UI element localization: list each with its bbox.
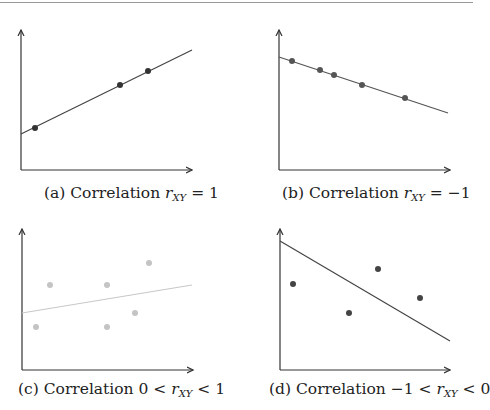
data-point <box>145 68 151 74</box>
data-point <box>375 266 381 272</box>
caption-c-var: r <box>171 380 178 398</box>
caption-d: (d) Correlation −1 < rXY < 0 <box>269 380 490 399</box>
caption-a-prefix: (a) Correlation <box>44 184 165 202</box>
data-point <box>289 58 295 64</box>
regression-line <box>22 285 192 313</box>
data-point <box>104 282 110 288</box>
caption-b-sub: XY <box>411 192 425 203</box>
caption-c-prefix: (c) Correlation 0 < <box>18 380 171 398</box>
panel-d <box>280 229 450 370</box>
data-point <box>346 310 352 316</box>
data-point <box>317 67 323 73</box>
caption-d-prefix: (d) Correlation −1 < <box>269 380 436 398</box>
data-point <box>402 95 408 101</box>
caption-a-sub: XY <box>173 192 187 203</box>
caption-d-var: r <box>436 380 443 398</box>
panel-a <box>21 30 192 170</box>
caption-c-sub: XY <box>179 388 193 399</box>
caption-d-sub: XY <box>444 388 458 399</box>
caption-b: (b) Correlation rXY = −1 <box>282 184 471 203</box>
caption-d-rel: < 0 <box>458 380 490 398</box>
data-point <box>104 324 110 330</box>
panel-b <box>279 30 450 170</box>
data-point <box>359 82 365 88</box>
data-point <box>331 72 337 78</box>
regression-line <box>280 241 450 341</box>
data-point <box>417 295 423 301</box>
caption-a-var: r <box>165 184 172 202</box>
caption-a-rel: = 1 <box>186 184 219 202</box>
data-point <box>132 310 138 316</box>
caption-c-rel: < 1 <box>192 380 225 398</box>
data-point <box>117 82 123 88</box>
caption-b-prefix: (b) Correlation <box>282 184 404 202</box>
data-point <box>33 324 39 330</box>
caption-b-rel: = −1 <box>425 184 471 202</box>
data-point <box>290 281 296 287</box>
caption-a: (a) Correlation rXY = 1 <box>44 184 219 203</box>
data-point <box>32 125 38 131</box>
caption-c: (c) Correlation 0 < rXY < 1 <box>18 380 225 399</box>
data-point <box>146 260 152 266</box>
regression-line <box>21 50 192 134</box>
data-point <box>47 282 53 288</box>
panel-c <box>22 229 193 370</box>
